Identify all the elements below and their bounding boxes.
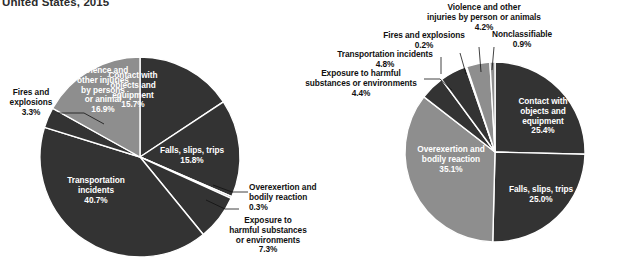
right-label-transportation: Transportation incidents 4.8% — [327, 50, 443, 70]
left-label-falls: Falls, slips, trips 15.8% — [152, 146, 232, 166]
right-label-overexertion: Overexertion and bodily reaction 35.1% — [404, 145, 498, 174]
right-label-exposure: Exposure to harmful substances or enviro… — [294, 69, 428, 98]
left-label-overexertion: Overexertion and bodily reaction 0.3% — [249, 183, 333, 212]
right-label-fires: Fires and explosions 0.2% — [375, 31, 473, 51]
right-label-falls: Falls, slips, trips 25.0% — [496, 185, 586, 205]
left-label-fires: Fires and explosions 3.3% — [2, 88, 60, 117]
left-label-exposure: Exposure to harmful substances or enviro… — [216, 216, 320, 255]
right-label-contact: Contact with objects and equipment 25.4% — [506, 97, 580, 136]
right-label-nonclassifiable: Nonclassifiable 0.9% — [478, 30, 566, 50]
figure-container: United States, 2015 Contact with objects… — [0, 0, 624, 263]
right-label-violence: Violence and other injuries by person or… — [411, 3, 557, 32]
left-label-transportation: Transportation incidents 40.7% — [55, 176, 137, 205]
left-label-violence: Violence and other injuries by persons o… — [72, 66, 134, 115]
